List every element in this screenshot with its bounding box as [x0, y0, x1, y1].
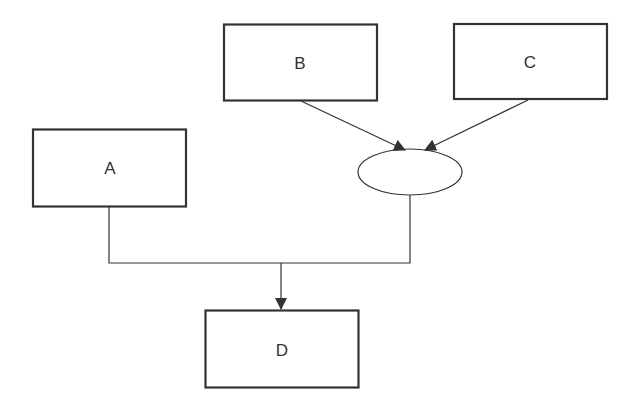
edge-c-to-junction	[425, 100, 528, 150]
node-d-label: D	[276, 341, 288, 360]
edge-b-to-junction	[301, 101, 405, 150]
junction-ellipse	[358, 149, 462, 195]
node-b-label: B	[294, 54, 305, 73]
node-c: C	[454, 24, 607, 99]
node-b: B	[224, 25, 377, 101]
node-a: A	[33, 130, 186, 207]
node-d: D	[206, 311, 359, 388]
node-c-label: C	[524, 53, 536, 72]
node-a-label: A	[104, 159, 116, 178]
flowchart-canvas: B C A D	[0, 0, 635, 408]
